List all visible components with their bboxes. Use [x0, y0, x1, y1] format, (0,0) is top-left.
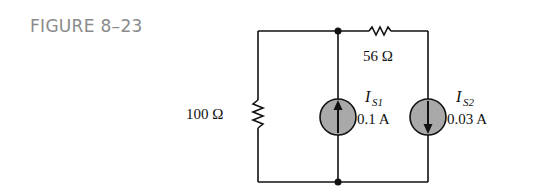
source2-symbol: I — [455, 88, 462, 105]
resistor-100-label: 100 Ω — [186, 106, 223, 122]
resistor-56-label: 56 Ω — [363, 48, 393, 64]
resistor-100-icon — [253, 100, 263, 128]
junction-top-icon — [335, 28, 342, 35]
source2-subscript: S2 — [463, 96, 475, 108]
source2-value: 0.03 A — [447, 111, 487, 127]
source1-symbol: I — [364, 88, 371, 105]
current-source-2-icon — [410, 99, 446, 135]
circuit-diagram: 56 Ω 100 Ω I S1 0.1 A I S2 0.03 A — [0, 0, 546, 195]
current-source-1-icon — [320, 99, 356, 135]
source1-subscript: S1 — [372, 96, 383, 108]
junction-bottom-icon — [335, 179, 342, 186]
source1-value: 0.1 A — [357, 111, 390, 127]
resistor-56-icon — [369, 27, 391, 35]
